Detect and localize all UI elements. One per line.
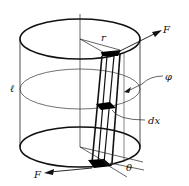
label-theta: θ (126, 162, 132, 173)
torsion-cylinder-diagram: r F ℓ φ dx F θ (0, 0, 189, 186)
label-force-bottom: F (33, 169, 42, 180)
strip-line-1 (92, 56, 102, 163)
force-bottom-line (50, 168, 92, 172)
radius-line-1 (80, 39, 103, 52)
label-dx: dx (148, 115, 160, 126)
label-length: ℓ (10, 83, 14, 94)
diagram-canvas: r F ℓ φ dx F θ (0, 0, 189, 186)
label-phi: φ (165, 71, 172, 82)
phi-leader (142, 76, 163, 84)
radius-line-2 (80, 39, 120, 50)
mid-element (96, 102, 116, 110)
theta-line-1 (104, 163, 127, 177)
force-top-arrowhead (152, 30, 162, 37)
top-element (101, 50, 121, 56)
force-bottom-arrowhead (44, 169, 54, 175)
label-force-top: F (162, 24, 171, 35)
label-radius: r (101, 32, 107, 43)
